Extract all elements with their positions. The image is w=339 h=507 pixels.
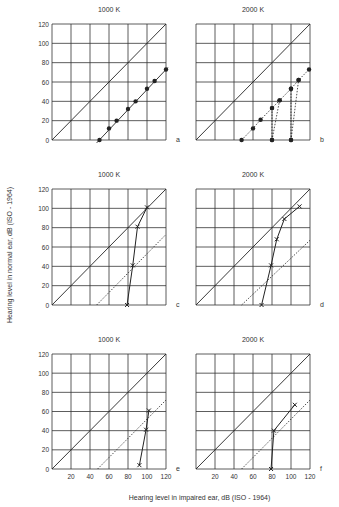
panel-letter: b	[320, 136, 324, 143]
data-point	[270, 138, 274, 142]
y-tick-label: 20	[42, 282, 50, 289]
y-tick-label: 60	[42, 79, 50, 86]
y-tick-label: 120	[38, 186, 49, 193]
series-measured	[269, 403, 297, 471]
series-measured	[239, 67, 311, 142]
x-tick-label: 60	[105, 473, 113, 480]
panel-d: 2000 Kd	[196, 171, 324, 308]
panel-title: 1000 K	[98, 6, 121, 13]
x-tick-label: 100	[286, 473, 297, 480]
x-tick-label: 20	[211, 473, 219, 480]
panel-letter: f	[320, 465, 322, 472]
x-tick-label: 40	[86, 473, 94, 480]
x-axis-label: Hearing level in impaired ear, dB (ISO -…	[0, 494, 339, 501]
x-tick-label: 40	[230, 473, 238, 480]
data-point	[145, 87, 149, 91]
panel-letter: d	[320, 301, 324, 308]
y-tick-label: 60	[42, 244, 50, 251]
x-tick-label: 120	[305, 473, 316, 480]
fit-line	[97, 68, 168, 143]
panel-title: 2000 K	[242, 6, 265, 13]
data-point	[289, 87, 293, 91]
x-tick-label: 80	[124, 473, 132, 480]
panel-title: 1000 K	[98, 336, 121, 343]
data-point	[307, 67, 311, 71]
y-tick-label: 80	[42, 389, 50, 396]
y-tick-label: 0	[45, 466, 49, 473]
dotted-line	[242, 400, 310, 469]
y-tick-label: 0	[45, 137, 49, 144]
y-tick-label: 100	[38, 205, 49, 212]
panel-title: 2000 K	[242, 336, 265, 343]
x-tick-label: 100	[142, 473, 153, 480]
y-tick-label: 80	[42, 59, 50, 66]
y-tick-label: 60	[42, 408, 50, 415]
panel-a: 1000 Ka020406080100120	[38, 6, 180, 144]
x-tick-label: 20	[67, 473, 75, 480]
dotted-line	[98, 400, 166, 469]
series-shift-from-100	[289, 78, 301, 142]
y-tick-label: 100	[38, 40, 49, 47]
panel-letter: c	[176, 301, 180, 308]
x-tick-label: 80	[268, 473, 276, 480]
panel-c: 1000 Kc020406080100120	[38, 171, 180, 309]
data-point-cross	[298, 204, 302, 208]
series-measured	[260, 204, 302, 307]
data-point	[239, 138, 243, 142]
y-tick-label: 100	[38, 370, 49, 377]
y-tick-label: 120	[38, 351, 49, 358]
panel-letter: e	[176, 465, 180, 472]
figure: 1000 Ka0204060801001202000 Kb1000 Kc0204…	[0, 0, 339, 507]
y-tick-label: 40	[42, 427, 50, 434]
y-tick-label: 20	[42, 117, 50, 124]
data-point	[277, 98, 281, 102]
panel-letter: a	[176, 136, 180, 143]
panel-f: 2000 Kf20406080100120	[196, 336, 322, 480]
dotted-line	[97, 234, 166, 305]
y-tick-label: 120	[38, 21, 49, 28]
dotted-line	[242, 240, 310, 305]
y-tick-label: 40	[42, 263, 50, 270]
panel-b: 2000 Kb	[196, 6, 324, 143]
panel-e: 1000 Ke02040608010012020406080100120	[38, 336, 180, 480]
data-point	[251, 126, 255, 130]
x-tick-label: 120	[161, 473, 172, 480]
panel-title: 1000 K	[98, 171, 121, 178]
x-tick-label: 60	[249, 473, 257, 480]
y-tick-label: 0	[45, 302, 49, 309]
data-point	[270, 106, 274, 110]
y-tick-label: 20	[42, 446, 50, 453]
data-point-cross	[293, 403, 297, 407]
data-point	[296, 78, 300, 82]
y-axis-label: Hearing level in normal ear, dB (ISO - 1…	[6, 187, 13, 323]
panel-title: 2000 K	[242, 171, 265, 178]
data-point	[258, 118, 262, 122]
data-point	[289, 138, 293, 142]
series-measured	[125, 205, 149, 307]
y-tick-label: 40	[42, 98, 50, 105]
y-tick-label: 80	[42, 224, 50, 231]
